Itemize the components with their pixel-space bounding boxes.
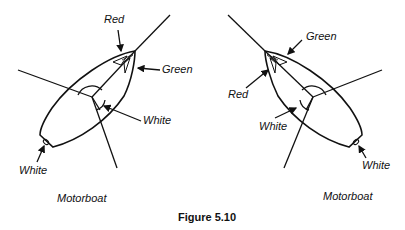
right-boat-title: Motorboat bbox=[323, 190, 373, 202]
left-motorboat bbox=[18, 15, 170, 168]
left-green-light-label: Green bbox=[162, 63, 193, 75]
left-stern-light-label: White bbox=[19, 164, 47, 176]
right-masthead-light-label: White bbox=[259, 120, 287, 132]
right-green-light-label: Green bbox=[306, 30, 337, 42]
left-red-light-label: Red bbox=[104, 13, 124, 25]
right-motorboat bbox=[228, 15, 382, 168]
left-masthead-light-label: White bbox=[143, 114, 171, 126]
right-red-light-label: Red bbox=[228, 88, 248, 100]
left-boat-title: Motorboat bbox=[57, 192, 107, 204]
figure-caption: Figure 5.10 bbox=[178, 211, 236, 223]
right-stern-light-label: White bbox=[362, 159, 390, 171]
